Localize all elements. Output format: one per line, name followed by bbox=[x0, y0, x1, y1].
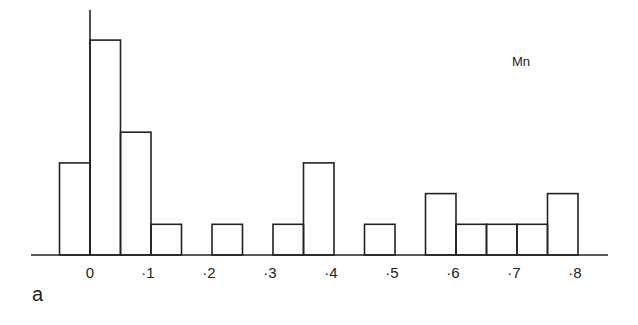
histogram-bar bbox=[304, 163, 335, 255]
x-tick-label: 0 bbox=[86, 264, 94, 281]
histogram-bar bbox=[456, 224, 487, 255]
histogram-bar bbox=[60, 163, 91, 255]
x-tick-label: ·2 bbox=[202, 264, 215, 281]
x-tick-label: ·1 bbox=[141, 264, 154, 281]
x-tick-label: ·8 bbox=[568, 264, 581, 281]
histogram-bar bbox=[121, 132, 152, 255]
histogram-bar bbox=[548, 194, 579, 255]
histogram-bar bbox=[273, 224, 304, 255]
histogram-bar bbox=[426, 194, 457, 255]
series-label-mn: Mn bbox=[512, 54, 530, 69]
panel-label: a bbox=[32, 283, 43, 306]
histogram-plot bbox=[0, 0, 638, 325]
histogram-bar bbox=[517, 224, 548, 255]
x-tick-label: ·7 bbox=[507, 264, 520, 281]
x-tick-label: ·4 bbox=[324, 264, 337, 281]
x-tick-label: ·3 bbox=[263, 264, 276, 281]
histogram-bar bbox=[151, 224, 182, 255]
histogram-bar bbox=[487, 224, 518, 255]
histogram-bar bbox=[90, 40, 121, 255]
histogram-bar bbox=[212, 224, 243, 255]
x-tick-label: ·5 bbox=[385, 264, 398, 281]
histogram-bar bbox=[365, 224, 396, 255]
x-tick-label: ·6 bbox=[446, 264, 459, 281]
